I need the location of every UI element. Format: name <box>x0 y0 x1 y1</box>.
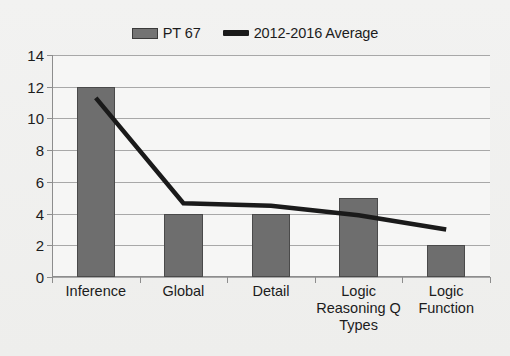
x-axis-label-line: Global <box>140 283 228 300</box>
x-axis-tick-mark <box>490 277 491 283</box>
bar-swatch-icon <box>132 28 158 39</box>
legend-label-pt67: PT 67 <box>163 25 201 41</box>
x-axis-label-line: Types <box>315 317 403 334</box>
y-axis-tick-label: 8 <box>36 142 44 159</box>
legend-entry-pt67[interactable]: PT 67 <box>132 25 201 41</box>
chart-legend: PT 67 2012-2016 Average <box>0 22 510 44</box>
x-axis-label: LogicReasoning QTypes <box>315 283 403 334</box>
y-axis-tick-label: 4 <box>36 205 44 222</box>
x-axis-labels: InferenceGlobalDetailLogicReasoning QTyp… <box>52 283 490 353</box>
y-axis-tick-label: 12 <box>27 78 44 95</box>
x-axis-label-line: Reasoning Q <box>315 300 403 317</box>
x-axis-label: Inference <box>52 283 140 300</box>
y-axis-tick-label: 14 <box>27 47 44 64</box>
x-axis-label: LogicFunction <box>402 283 490 317</box>
y-axis-tick-label: 10 <box>27 110 44 127</box>
x-axis-label-line: Function <box>402 300 490 317</box>
legend-label-average: 2012-2016 Average <box>254 25 379 41</box>
y-axis-tick-label: 6 <box>36 173 44 190</box>
chart-container: PT 67 2012-2016 Average 02468101214 Infe… <box>0 0 510 356</box>
line-swatch-icon <box>223 30 249 36</box>
x-axis-label-line: Logic <box>402 283 490 300</box>
x-axis-label: Detail <box>227 283 315 300</box>
x-axis-label-line: Detail <box>227 283 315 300</box>
y-axis-tick-label: 0 <box>36 269 44 286</box>
x-axis-label-line: Logic <box>315 283 403 300</box>
line-series-average <box>52 55 490 277</box>
plot-area: 02468101214 <box>52 55 490 277</box>
y-axis-tick-label: 2 <box>36 237 44 254</box>
x-axis-label-line: Inference <box>52 283 140 300</box>
average-line-path <box>52 55 490 277</box>
legend-entry-average[interactable]: 2012-2016 Average <box>223 25 379 41</box>
x-axis-label: Global <box>140 283 228 300</box>
